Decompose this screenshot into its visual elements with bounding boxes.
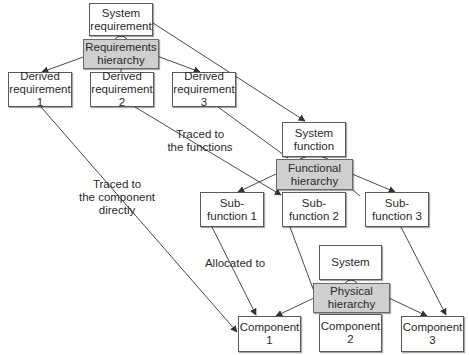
allocated-line1: Allocated to <box>203 257 267 270</box>
traced-component-line2: the component <box>72 191 162 204</box>
func-hierarchy-to-sub1 <box>238 174 276 192</box>
allocated-to-label: Allocated to <box>203 257 267 270</box>
traced-component-line1: Traced to <box>72 178 162 191</box>
sub1-to-component1 <box>212 227 256 315</box>
component-1-line1: Component <box>240 321 299 334</box>
functional-hierarchy-line1: Functional <box>288 162 341 175</box>
connector-layer <box>0 0 469 355</box>
derived-requirement-2-box: Derived requirement 2 <box>90 72 154 107</box>
traced-to-component-label: Traced to the component directly <box>72 178 162 217</box>
component-3-box: Component 3 <box>401 316 464 352</box>
derived-requirement-1-line2: requirement 1 <box>9 83 70 109</box>
sub-function-2-box: Sub- function 2 <box>282 192 346 227</box>
system-function-box: System function <box>282 122 346 157</box>
system-line1: System <box>331 256 369 269</box>
derived-requirement-1-line1: Derived <box>9 70 70 83</box>
derived-requirement-1-box: Derived requirement 1 <box>8 72 72 107</box>
component-3-line1: Component <box>403 321 462 334</box>
physical-hierarchy-line2: hierarchy <box>328 298 375 311</box>
requirements-hierarchy-box: Requirements hierarchy <box>83 39 159 69</box>
sub-function-3-box: Sub- function 3 <box>365 192 429 227</box>
derived-requirement-3-line1: Derived <box>173 70 234 83</box>
derived-requirement-3-line2: requirement 3 <box>173 83 234 109</box>
phys-hierarchy-to-component1 <box>276 298 314 316</box>
derived-requirement-2-line1: Derived <box>91 70 152 83</box>
system-requirement-line2: requirement <box>90 20 151 33</box>
sub-function-1-line1: Sub- <box>207 197 257 210</box>
func-hierarchy-to-sub3 <box>352 174 395 192</box>
component-3-line2: 3 <box>403 334 462 347</box>
traced-functions-line2: the functions <box>160 141 240 154</box>
sub2-to-physical <box>290 227 315 294</box>
functional-hierarchy-box: Functional hierarchy <box>276 159 353 190</box>
component-2-line2: 2 <box>321 333 380 346</box>
system-function-line1: System <box>294 127 334 140</box>
sub-function-3-line2: function 3 <box>372 210 422 223</box>
derived-requirement-3-box: Derived requirement 3 <box>172 72 236 107</box>
traceability-diagram: System requirement Requirements hierarch… <box>0 0 469 355</box>
sub3-to-component3 <box>401 227 446 315</box>
phys-hierarchy-to-component3 <box>389 298 427 316</box>
sub-function-2-line2: function 2 <box>289 210 339 223</box>
physical-hierarchy-line1: Physical <box>328 285 375 298</box>
component-1-box: Component 1 <box>238 316 301 352</box>
functional-hierarchy-line2: hierarchy <box>288 175 341 188</box>
func-hierarchy-to-sub2-stub <box>353 190 360 196</box>
component-1-line2: 1 <box>240 334 299 347</box>
system-requirement-line1: System <box>90 7 151 20</box>
traced-functions-line1: Traced to <box>160 128 240 141</box>
physical-hierarchy-box: Physical hierarchy <box>313 283 390 313</box>
sub-function-1-box: Sub- function 1 <box>200 192 264 227</box>
sub-function-3-line1: Sub- <box>372 197 422 210</box>
traced-to-functions-label: Traced to the functions <box>160 128 240 154</box>
sub-function-1-line2: function 1 <box>207 210 257 223</box>
sub-function-2-line1: Sub- <box>289 197 339 210</box>
system-function-line2: function <box>294 140 334 153</box>
derived-requirement-2-line2: requirement 2 <box>91 83 152 109</box>
requirements-hierarchy-line2: hierarchy <box>85 54 157 67</box>
system-requirement-box: System requirement <box>89 3 153 36</box>
traced-component-line3: directly <box>72 204 162 217</box>
component-2-box: Component 2 <box>319 314 382 352</box>
requirements-hierarchy-line1: Requirements <box>85 41 157 54</box>
system-box: System <box>319 245 382 280</box>
component-2-line1: Component <box>321 320 380 333</box>
